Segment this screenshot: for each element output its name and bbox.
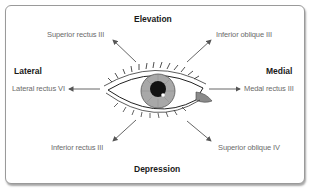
eye-diagram-art [0, 0, 311, 192]
arrow-superior-rectus-icon [113, 40, 136, 62]
arrow-inferior-oblique-icon [187, 40, 211, 62]
arrow-superior-oblique-icon [187, 121, 211, 141]
arrow-inferior-rectus-icon [113, 120, 136, 141]
eye-icon [104, 62, 212, 118]
